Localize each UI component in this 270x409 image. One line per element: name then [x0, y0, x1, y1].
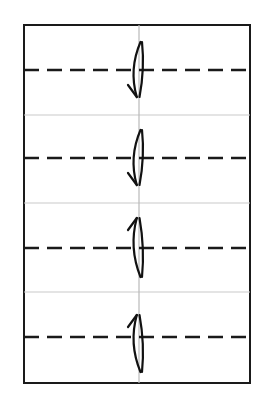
figure-svg — [0, 0, 270, 409]
diagram-canvas — [0, 0, 270, 409]
plate-outline — [24, 25, 250, 383]
